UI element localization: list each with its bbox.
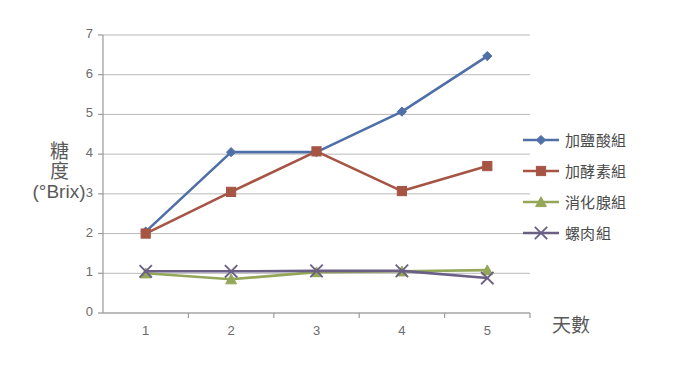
y-tick-label: 4	[71, 145, 93, 160]
series-2	[141, 147, 492, 238]
data-point-square	[227, 187, 236, 196]
x-tick-label: 1	[136, 323, 156, 338]
y-tick-label: 6	[71, 66, 93, 81]
data-series-layer	[140, 51, 494, 284]
data-point-square	[397, 186, 406, 195]
legend-label: 加鹽酸組	[565, 129, 626, 150]
legend-marker-triangle-icon	[522, 195, 560, 209]
y-tick-label: 2	[71, 225, 93, 240]
data-point-square	[483, 161, 492, 170]
y-tick-label: 7	[71, 26, 93, 41]
x-tick-label: 4	[392, 323, 412, 338]
chart-legend: 加鹽酸組加酵素組消化腺組螺肉組	[522, 124, 677, 248]
x-tick-label: 5	[477, 323, 497, 338]
data-point-diamond	[536, 135, 545, 144]
legend-label: 加酵素組	[565, 160, 626, 181]
x-axis-title: 天數	[552, 310, 590, 337]
legend-item[interactable]: 加鹽酸組	[522, 124, 677, 155]
legend-item[interactable]: 消化腺組	[522, 186, 677, 217]
legend-marker-square-icon	[522, 164, 560, 178]
line-chart: 糖 度 (°Brix) 天數 01234567 12345 加鹽酸組加酵素組消化…	[0, 0, 683, 368]
legend-marker-diamond-icon	[522, 133, 560, 147]
y-tick-label: 0	[71, 304, 93, 319]
legend-label: 螺肉組	[565, 222, 611, 243]
data-point-square	[536, 166, 545, 175]
x-tick-label: 2	[221, 323, 241, 338]
series-1	[141, 51, 492, 236]
series-line	[146, 151, 488, 233]
y-tick-label: 5	[71, 105, 93, 120]
legend-marker-x-icon	[522, 226, 560, 240]
series-line	[146, 56, 488, 232]
data-point-square	[141, 229, 150, 238]
y-axis-title-line-2: 度	[20, 162, 98, 182]
x-tick-label: 3	[307, 323, 327, 338]
data-point-square	[312, 147, 321, 156]
legend-label: 消化腺組	[565, 191, 626, 212]
y-tick-label: 3	[71, 185, 93, 200]
legend-item[interactable]: 螺肉組	[522, 217, 677, 248]
legend-item[interactable]: 加酵素組	[522, 155, 677, 186]
y-tick-label: 1	[71, 264, 93, 279]
